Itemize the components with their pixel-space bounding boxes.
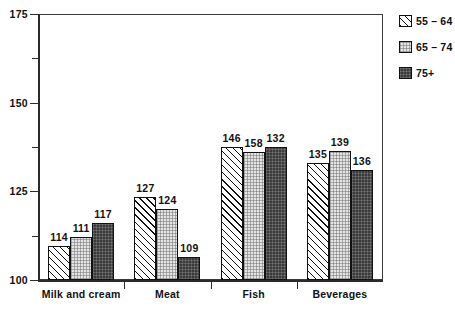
category-label: Beverages	[312, 288, 367, 300]
bar: 136	[351, 170, 373, 280]
legend-item[interactable]: 65 – 74	[399, 40, 455, 53]
bar: 132	[265, 147, 287, 280]
x-tick	[211, 282, 212, 289]
legend-item-label: 65 – 74	[416, 41, 452, 53]
bar: 127	[134, 197, 156, 280]
bar-value-label: 124	[158, 194, 176, 206]
bar-value-label: 117	[94, 208, 112, 220]
category-label: Milk and cream	[42, 288, 121, 300]
bar-value-label: 135	[309, 148, 327, 160]
legend-item[interactable]: 75+	[399, 66, 455, 79]
bar: 139	[329, 151, 351, 280]
bar: 124	[156, 209, 178, 280]
bar: 117	[92, 223, 114, 280]
bar-value-label: 136	[353, 155, 371, 167]
legend-swatch-icon	[399, 15, 412, 27]
x-tick	[124, 282, 125, 289]
bar-value-label: 146	[223, 132, 241, 144]
bar-value-label: 127	[136, 182, 154, 194]
bar-group: 146158132	[221, 14, 287, 280]
legend-item[interactable]: 55 – 64	[399, 14, 455, 27]
y-tick-major	[30, 280, 39, 281]
legend-swatch-icon	[399, 41, 412, 53]
legend: 55 – 6465 – 7475+	[399, 14, 455, 92]
bar: 158	[243, 152, 265, 280]
bar-value-label: 132	[267, 132, 285, 144]
bar-group: 135139136	[307, 14, 373, 280]
bar-value-label: 111	[73, 222, 90, 234]
category-label: Meat	[155, 288, 180, 300]
bar-group: 114111117	[48, 14, 114, 280]
bar: 111	[70, 237, 92, 280]
bar: 146	[221, 147, 243, 280]
bar-value-label: 109	[180, 242, 198, 254]
bar-value-label: 114	[50, 231, 68, 243]
y-tick-label: 125	[0, 185, 28, 197]
bar: 109	[178, 257, 200, 280]
bar-value-label: 139	[331, 136, 349, 148]
x-tick	[297, 282, 298, 289]
legend-item-label: 75+	[416, 67, 434, 79]
bar-group: 127124109	[134, 14, 200, 280]
legend-item-label: 55 – 64	[416, 15, 452, 27]
bar: 135	[307, 163, 329, 280]
bar: 114	[48, 246, 70, 280]
y-tick-label: 175	[0, 8, 28, 20]
bar-chart: 100125150175 114111117127124109146158132…	[0, 0, 455, 309]
bar-value-label: 158	[245, 137, 263, 149]
bars-layer: 114111117127124109146158132135139136	[38, 14, 383, 280]
y-tick-label: 100	[0, 274, 28, 286]
legend-swatch-icon	[399, 67, 412, 79]
y-tick-label: 150	[0, 97, 28, 109]
category-label: Fish	[242, 288, 264, 300]
